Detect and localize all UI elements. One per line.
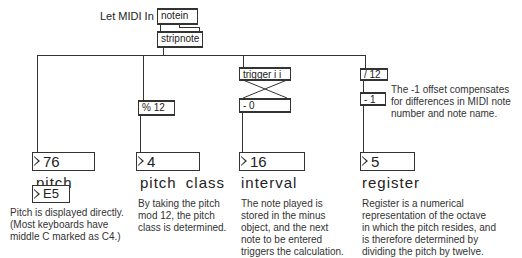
pitch-value: 76 (43, 153, 60, 170)
register-label: register (362, 174, 420, 191)
trigger-cross-wires (239, 80, 291, 99)
wire-bus-pitch (37, 55, 38, 153)
interval-label: interval (241, 174, 297, 191)
register-description: Register is a numerical representation o… (362, 198, 496, 258)
stripnote-object[interactable]: stripnote (157, 31, 203, 48)
wire-minus1-register (363, 106, 364, 153)
number-arrow-icon (34, 156, 40, 166)
inlet-bar (157, 8, 198, 10)
pitch-class-value: 4 (147, 153, 155, 170)
trigger-object[interactable]: trigger i i (239, 67, 291, 81)
mod-12-object[interactable]: % 12 (138, 100, 175, 116)
wire-div-minus1 (363, 80, 364, 92)
interval-number-box[interactable]: 16 (239, 152, 305, 171)
pitch-class-description: By taking the pitch mod 12, the pitch cl… (138, 198, 226, 234)
number-arrow-icon (362, 156, 368, 166)
outlet-bar (239, 79, 291, 81)
interval-description: The note played is stored in the minus o… (241, 198, 344, 258)
wire-bus-mod (143, 55, 144, 101)
wire-mod-pitchclass (140, 115, 141, 153)
minus-0-object[interactable]: - 0 (239, 98, 291, 113)
outlet-bar (157, 46, 203, 48)
outlet-bar (360, 79, 388, 81)
interval-value: 16 (250, 153, 267, 170)
wire-minus0-interval (242, 112, 243, 153)
notein-label: notein (161, 10, 188, 21)
number-arrow-icon (138, 156, 144, 166)
wire-notein-stripnote-right-b (179, 27, 200, 28)
pitch-class-label: pitch class (140, 174, 225, 191)
minus-0-label: - 0 (243, 100, 255, 111)
inlet-bar (239, 67, 291, 69)
divide-12-object[interactable]: / 12 (360, 68, 388, 81)
outlet-bar (360, 104, 386, 106)
notein-object[interactable]: notein (157, 8, 198, 25)
inlet-bar (138, 100, 175, 102)
pitch-class-number-box[interactable]: 4 (136, 152, 200, 171)
register-number-box[interactable]: 5 (360, 152, 415, 171)
number-arrow-icon (241, 156, 247, 166)
outlet-bar (239, 111, 291, 113)
stripnote-label: stripnote (161, 33, 199, 44)
note-name-value: E5 (43, 186, 59, 201)
bus-horizontal (37, 55, 366, 56)
pitch-description: Pitch is displayed directly. (Most keybo… (10, 207, 124, 243)
register-value: 5 (371, 153, 379, 170)
inlet-bar (239, 98, 291, 100)
offset-comment: The -1 offset compensates for difference… (391, 84, 511, 120)
wire-bus-div (365, 55, 366, 68)
minus-1-object[interactable]: - 1 (360, 92, 386, 106)
mod-12-label: % 12 (142, 102, 165, 113)
pitch-number-box[interactable]: 76 (32, 152, 95, 171)
inlet-bar (360, 68, 388, 70)
midi-in-label: Let MIDI In (100, 10, 154, 22)
outlet-bar (157, 23, 198, 25)
inlet-bar (360, 92, 386, 94)
outlet-bar (138, 114, 175, 116)
note-name-box[interactable]: E5 (32, 185, 70, 203)
inlet-bar (157, 31, 203, 33)
number-arrow-icon (34, 189, 40, 199)
